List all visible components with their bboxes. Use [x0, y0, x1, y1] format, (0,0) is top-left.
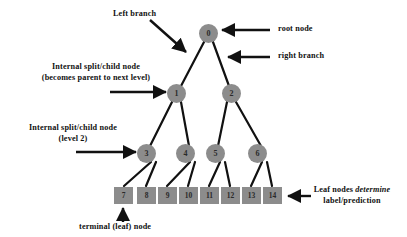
annotation-arrows-layer — [0, 0, 407, 237]
left-branch-arrow — [150, 20, 186, 52]
tree-diagram-canvas: 0 1 2 3 4 5 6 7 8 9 10 11 12 13 14 Left … — [0, 0, 407, 237]
